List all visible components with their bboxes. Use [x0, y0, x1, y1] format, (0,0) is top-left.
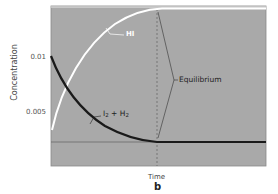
panel-label: b: [154, 181, 161, 192]
chart-plot: [0, 0, 278, 194]
i2-h2-label: I2 + H2: [103, 109, 129, 118]
equilibrium-label: Equilibrium: [179, 75, 222, 84]
hi-label: HI: [126, 30, 134, 38]
h2-subscript: 2: [125, 112, 129, 118]
x-axis-label: Time: [148, 173, 165, 181]
y-axis-label: Concentration: [10, 33, 19, 113]
plus-h-text: + H: [109, 109, 126, 118]
